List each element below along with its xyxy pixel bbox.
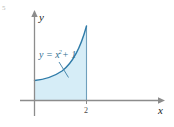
- curve-label-rhs: + 1: [62, 49, 76, 60]
- x-tick-label-2: 2: [84, 106, 88, 115]
- y-axis-label: y: [38, 11, 44, 23]
- shaded-area-region: [35, 26, 87, 101]
- y-axis-arrowhead: [31, 10, 37, 17]
- area-under-curve-figure: y = x 2 + 1 y x 2 5: [0, 0, 174, 127]
- corner-figure-mark: 5: [2, 4, 6, 12]
- figure-container: y = x 2 + 1 y x 2 5: [0, 0, 174, 127]
- x-axis-label: x: [157, 104, 163, 116]
- x-axis-arrowhead: [158, 97, 165, 103]
- curve-label-lhs: y = x: [38, 49, 60, 60]
